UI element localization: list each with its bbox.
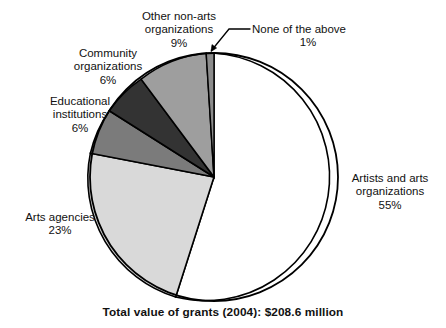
pie-label-arts-agencies: Arts agencies 23% — [8, 211, 112, 238]
pie-label-line2: institutions — [53, 108, 107, 120]
pie-label-line2: organizations — [145, 23, 213, 35]
pie-label-percent: 1% — [252, 36, 364, 49]
pie-label-percent: 6% — [44, 74, 172, 87]
pie-label-line1: Artists and arts — [352, 172, 429, 184]
pie-label-percent: 23% — [8, 224, 112, 237]
pie-label-percent: 6% — [24, 122, 136, 135]
pie-label-line1: Arts agencies — [25, 211, 95, 223]
pie-label-line1: Community — [79, 47, 137, 59]
pie-label-line2: organizations — [74, 60, 142, 72]
pie-label-percent: 55% — [338, 199, 442, 212]
pie-label-line2: organizations — [356, 185, 424, 197]
chart-caption: Total value of grants (2004): $208.6 mil… — [0, 305, 446, 319]
pie-label-none-of-the-above: None of the above 1% — [252, 23, 402, 50]
pie-label-community-organizations: Community organizations 6% — [44, 47, 172, 87]
pie-label-educational-institutions: Educational institutions 6% — [24, 95, 136, 135]
pie-chart-figure: Other non-arts organizations 9% None of … — [0, 0, 446, 328]
pie-label-artists-and-arts-organizations: Artists and arts organizations 55% — [338, 172, 442, 212]
pie-label-line1: None of the above — [252, 23, 346, 35]
pie-label-line1: Educational — [50, 95, 110, 107]
pie-label-line1: Other non-arts — [142, 10, 216, 22]
pie-label-other-non-arts-organizations: Other non-arts organizations 9% — [104, 10, 254, 50]
